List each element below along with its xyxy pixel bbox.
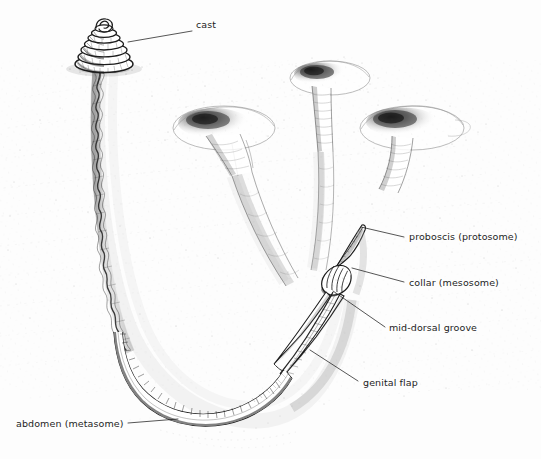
label-abdomen: abdomen (metasome) [16,418,124,429]
leader-cast [128,31,192,42]
label-mid-dorsal-groove: mid-dorsal groove [389,322,477,333]
acorn-worm-illustration [0,0,541,459]
sediment-grains [0,60,541,390]
illustration-page: cast proboscis (protosome) collar (mesos… [0,0,541,459]
leader-abdomen [128,419,178,423]
label-proboscis: proboscis (protosome) [409,231,518,242]
label-genital-flap: genital flap [363,377,418,388]
label-collar: collar (mesosome) [409,277,499,288]
label-cast: cast [196,19,216,30]
